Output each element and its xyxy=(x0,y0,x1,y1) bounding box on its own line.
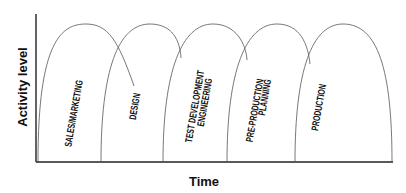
arch-production xyxy=(295,24,392,162)
label-production: PRODUCTION xyxy=(309,83,329,131)
y-axis-title: Activity level xyxy=(15,47,30,127)
arch-design xyxy=(101,24,181,162)
phase-labels: SALES/MARKETING DESIGN TEST DEVELOPMENT … xyxy=(62,69,328,148)
label-design: DESIGN xyxy=(127,92,143,120)
phase-activity-diagram: Time Activity level SALES/MARKETING DESI… xyxy=(0,0,406,193)
x-axis-title: Time xyxy=(189,174,219,189)
phase-arches xyxy=(38,24,392,162)
label-sales-marketing: SALES/MARKETING xyxy=(62,79,85,148)
